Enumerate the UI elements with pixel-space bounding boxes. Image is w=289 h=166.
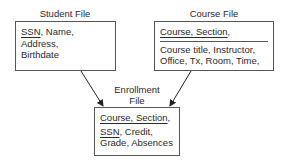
arrow-student-to-enrollment <box>81 71 103 106</box>
arrow-course-to-enrollment <box>170 71 191 106</box>
relationship-arrows <box>0 0 289 166</box>
